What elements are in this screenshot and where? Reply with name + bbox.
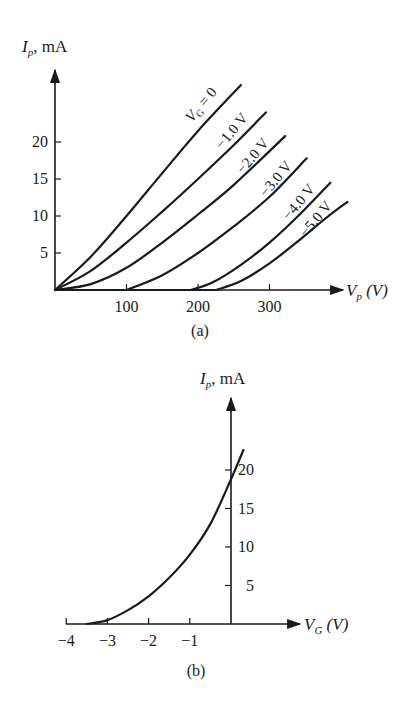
chart-a: 5101520 100200300 Ip, mA Vp (V) VG = 0 −… bbox=[21, 37, 388, 340]
y-tick-label: 20 bbox=[238, 461, 254, 478]
y-tick-label: 20 bbox=[32, 133, 48, 150]
x-tick-label: −4 bbox=[58, 632, 75, 649]
curve bbox=[55, 202, 347, 290]
curve-label-vg0: VG = 0 bbox=[182, 84, 221, 126]
caption-b: (b) bbox=[187, 662, 206, 680]
curve-label-vg-3: −3.0 V bbox=[256, 158, 295, 200]
x-tick-label: −2 bbox=[140, 632, 157, 649]
curve-label-vg-1: −1.0 V bbox=[212, 110, 251, 152]
curve bbox=[55, 183, 330, 290]
x-tick-label: 100 bbox=[115, 298, 139, 315]
x-tick-label: 200 bbox=[186, 298, 210, 315]
x-tick-label: −3 bbox=[99, 632, 116, 649]
x-tick-label: −1 bbox=[181, 632, 198, 649]
y-ticks-a: 5101520 bbox=[32, 133, 61, 261]
curves-b bbox=[87, 450, 244, 624]
curve bbox=[87, 450, 244, 624]
y-axis-title-a: Ip, mA bbox=[21, 37, 68, 58]
y-tick-label: 10 bbox=[238, 538, 254, 555]
y-axis-title-b: Ip, mA bbox=[199, 369, 246, 390]
y-tick-label: 5 bbox=[40, 244, 48, 261]
caption-a: (a) bbox=[191, 322, 209, 340]
curve bbox=[55, 85, 241, 290]
chart-b: 5101520 −4−3−2−1 Ip, mA VG (V) (b) bbox=[58, 369, 349, 680]
x-tick-label: 300 bbox=[258, 298, 282, 315]
x-ticks-b: −4−3−2−1 bbox=[58, 618, 199, 649]
y-tick-label: 5 bbox=[246, 577, 254, 594]
y-tick-label: 15 bbox=[238, 500, 254, 517]
x-axis-title-b: VG (V) bbox=[304, 615, 349, 636]
x-axis-title-a: Vp (V) bbox=[346, 281, 388, 302]
y-tick-label: 10 bbox=[32, 207, 48, 224]
y-tick-label: 15 bbox=[32, 170, 48, 187]
figure: 5101520 100200300 Ip, mA Vp (V) VG = 0 −… bbox=[0, 0, 411, 702]
